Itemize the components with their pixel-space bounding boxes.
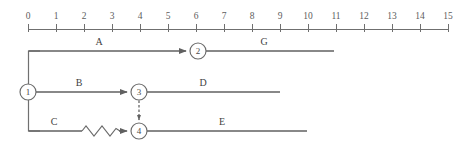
tick-label-4: 4 bbox=[138, 11, 143, 21]
activity-row-a-g: A G 2 bbox=[29, 36, 335, 59]
tick-label-2: 2 bbox=[82, 11, 87, 21]
timescale-ticks bbox=[29, 24, 449, 32]
activity-label-g: G bbox=[260, 36, 267, 47]
tick-label-14: 14 bbox=[415, 11, 425, 21]
float-zigzag-indicator-c bbox=[82, 126, 120, 136]
tick-label-6: 6 bbox=[194, 11, 199, 21]
tick-label-15: 15 bbox=[443, 11, 453, 21]
activity-label-a: A bbox=[95, 36, 103, 47]
network-diagram-canvas: 0 1 2 3 4 5 6 7 8 9 10 11 12 13 14 15 bbox=[0, 0, 466, 147]
activity-label-d: D bbox=[199, 77, 206, 88]
node-label-1: 1 bbox=[26, 87, 31, 97]
node-label-4: 4 bbox=[137, 126, 142, 136]
tick-label-8: 8 bbox=[250, 11, 255, 21]
node-label-2: 2 bbox=[196, 46, 201, 56]
tick-label-13: 13 bbox=[387, 11, 397, 21]
tick-label-5: 5 bbox=[166, 11, 171, 21]
tick-label-3: 3 bbox=[110, 11, 115, 21]
tick-label-9: 9 bbox=[278, 11, 283, 21]
activity-label-b: B bbox=[76, 77, 83, 88]
tick-label-10: 10 bbox=[303, 11, 313, 21]
activity-row-b-d: B D 3 bbox=[29, 77, 281, 100]
timescale-tick-labels: 0 1 2 3 4 5 6 7 8 9 10 11 12 13 14 15 bbox=[26, 11, 453, 21]
activity-label-c: C bbox=[51, 116, 58, 127]
node-label-3: 3 bbox=[137, 87, 142, 97]
network-diagram-svg: 0 1 2 3 4 5 6 7 8 9 10 11 12 13 14 15 bbox=[0, 0, 466, 147]
activity-label-e: E bbox=[219, 116, 225, 127]
tick-label-7: 7 bbox=[222, 11, 227, 21]
tick-label-1: 1 bbox=[54, 11, 59, 21]
tick-label-12: 12 bbox=[359, 11, 369, 21]
activity-row-c-e: C E 4 bbox=[29, 116, 308, 139]
tick-label-11: 11 bbox=[331, 11, 340, 21]
timescale-axis: 0 1 2 3 4 5 6 7 8 9 10 11 12 13 14 15 bbox=[26, 11, 453, 32]
node1-group: 1 bbox=[20, 84, 36, 100]
tick-label-0: 0 bbox=[26, 11, 31, 21]
